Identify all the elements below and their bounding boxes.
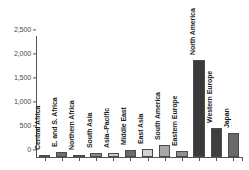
y-axis-tick: 2,500	[14, 26, 36, 33]
x-axis-tick-mark	[199, 157, 200, 161]
x-axis-tick-mark	[79, 157, 80, 161]
x-axis-tick-mark	[148, 157, 149, 161]
x-axis-tick-mark	[113, 157, 114, 161]
bar-group: E. and S. Africa	[56, 37, 67, 157]
x-axis-tick-mark	[62, 157, 63, 161]
bar-group: East Asia	[142, 37, 153, 157]
y-axis-tick-label: 1,500	[14, 74, 33, 81]
bar	[142, 149, 153, 157]
bar-group: Central Africa	[39, 37, 50, 157]
bar-category-label: Middle East	[120, 107, 127, 145]
y-axis-tick: 2,000	[14, 50, 36, 57]
x-axis-tick-mark	[216, 157, 217, 161]
bar-category-label: Northern Africa	[68, 100, 75, 150]
y-axis-tick-label: 1,000	[14, 98, 33, 105]
bar-category-label: Western Europe	[206, 71, 213, 123]
y-axis-tick-label: 500	[20, 122, 33, 129]
bar-group: South America	[159, 37, 170, 157]
y-axis-tick: 1,000	[14, 98, 36, 105]
bar-category-label: South America	[154, 92, 161, 140]
bar-category-label: South Asia	[86, 113, 93, 148]
bar-group: South Asia	[90, 37, 101, 157]
x-axis-tick-mark	[130, 157, 131, 161]
bar-group: Eastern Europe	[176, 37, 187, 157]
bar-chart: 2,5002,0001,5001,0005000 Central AfricaE…	[0, 0, 249, 170]
bar	[193, 60, 204, 157]
bar-group: Japan	[228, 37, 239, 157]
x-axis-tick-mark	[242, 157, 243, 161]
x-axis-tick-mark	[233, 157, 234, 161]
bar	[159, 145, 170, 157]
x-axis-tick-mark	[165, 157, 166, 161]
bar	[125, 150, 136, 157]
bar-category-label: E. and S. Africa	[51, 98, 58, 148]
bar-group: Middle East	[125, 37, 136, 157]
bar-group: Western Europe	[211, 37, 222, 157]
bar-category-label: Central Africa	[34, 106, 41, 150]
bar	[228, 133, 239, 157]
bar-category-label: North America	[189, 8, 196, 55]
bar-category-label: Japan	[223, 109, 230, 129]
bar-category-label: Eastern Europe	[171, 96, 178, 146]
x-axis-tick-mark	[45, 157, 46, 161]
x-axis-line	[36, 157, 243, 158]
y-axis-tick: 1,500	[14, 74, 36, 81]
bar-group: Asia–Pacific	[108, 37, 119, 157]
bar-group: North America	[193, 37, 204, 157]
bar-series: Central AfricaE. and S. AfricaNorthern A…	[36, 37, 242, 157]
bar-category-label: East Asia	[137, 114, 144, 144]
x-axis-tick-mark	[96, 157, 97, 161]
bar	[211, 128, 222, 157]
bar-group: Northern Africa	[73, 37, 84, 157]
y-axis-tick-mark	[33, 29, 36, 30]
plot-area: 2,5002,0001,5001,0005000 Central AfricaE…	[36, 37, 242, 157]
x-axis-tick-mark	[182, 157, 183, 161]
bar-category-label: Asia–Pacific	[103, 108, 110, 148]
y-axis-tick-label: 2,500	[14, 26, 33, 33]
y-axis-tick-label: 2,000	[14, 50, 33, 57]
